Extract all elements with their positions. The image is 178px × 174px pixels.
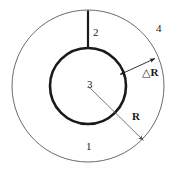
figure-container: 2 4 3 1 R △R xyxy=(0,0,178,174)
concentric-circles-diagram: 2 4 3 1 R △R xyxy=(0,0,178,174)
thickness-label: △R xyxy=(142,66,159,78)
region-label-2: 2 xyxy=(93,26,99,38)
region-label-3: 3 xyxy=(87,78,93,90)
region-label-1: 1 xyxy=(86,140,92,152)
radius-label: R xyxy=(132,110,141,122)
region-label-4: 4 xyxy=(156,22,162,34)
